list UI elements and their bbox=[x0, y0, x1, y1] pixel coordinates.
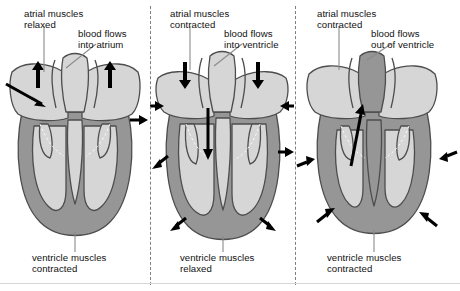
panel3-top-label: atrial muscles contracted bbox=[317, 8, 376, 31]
panel-ventricular-contraction: atrial muscles contracted blood flows ou… bbox=[295, 0, 460, 291]
heart-illustration bbox=[307, 52, 437, 234]
panel-divider-2 bbox=[295, 6, 296, 285]
panel1-top-label: atrial muscles relaxed bbox=[24, 8, 83, 31]
arrow-in-right-mid bbox=[439, 152, 457, 162]
panel2-flow-label: blood flows into ventricle bbox=[224, 28, 279, 51]
panel1-bottom-label-line2: contracted bbox=[32, 263, 106, 274]
panel3-top-label-line1: atrial muscles bbox=[317, 8, 376, 19]
panel1-top-label-line2: relaxed bbox=[24, 19, 83, 30]
cardiac-cycle-figure: atrial muscles relaxed blood flows into … bbox=[0, 0, 460, 291]
arrow-in-lower-right bbox=[419, 212, 437, 226]
arrow-out-lower-right bbox=[260, 218, 276, 231]
arrow-out-lower-left bbox=[152, 156, 168, 169]
panel-atrial-contraction: atrial muscles contracted blood flows in… bbox=[150, 0, 295, 291]
figure-bottom-rule bbox=[0, 283, 460, 284]
panel1-top-label-line1: atrial muscles bbox=[24, 8, 83, 19]
panel3-flow-label: blood flows out of ventricle bbox=[371, 28, 434, 51]
panel3-flow-label-line1: blood flows bbox=[371, 28, 434, 39]
panel3-bottom-label: ventricle muscles contracted bbox=[327, 252, 401, 275]
panel3-bottom-label-line1: ventricle muscles bbox=[327, 252, 401, 263]
panel3-bottom-label-line2: contracted bbox=[327, 263, 401, 274]
panel2-top-label: atrial muscles contracted bbox=[170, 8, 229, 31]
panel1-bottom-label: ventricle muscles contracted bbox=[32, 252, 106, 275]
panel1-bottom-label-line1: ventricle muscles bbox=[32, 252, 106, 263]
panel3-top-label-line2: contracted bbox=[317, 19, 376, 30]
panel1-flow-label-line2: into atrium bbox=[78, 39, 127, 50]
panel2-top-label-line1: atrial muscles bbox=[170, 8, 229, 19]
panel1-flow-label-line1: blood flows bbox=[78, 28, 127, 39]
arrow-out-to-right bbox=[130, 115, 148, 125]
panel2-bottom-label-line2: relaxed bbox=[180, 263, 254, 274]
heart-illustration bbox=[156, 52, 288, 240]
heart-diagram-stage-1 bbox=[0, 0, 150, 291]
heart-illustration bbox=[10, 54, 140, 236]
panel1-flow-label: blood flows into atrium bbox=[78, 28, 127, 51]
panel-divider-1 bbox=[150, 6, 151, 285]
panel2-top-label-line2: contracted bbox=[170, 19, 229, 30]
arrow-in-left-mid bbox=[297, 156, 315, 166]
arrow-out-lower-left-2 bbox=[170, 218, 186, 231]
panel3-flow-label-line2: out of ventricle bbox=[371, 39, 434, 50]
panel2-bottom-label: ventricle muscles relaxed bbox=[180, 252, 254, 275]
panel2-bottom-label-line1: ventricle muscles bbox=[180, 252, 254, 263]
panel-atrial-filling: atrial muscles relaxed blood flows into … bbox=[0, 0, 150, 291]
panel2-flow-label-line1: blood flows bbox=[224, 28, 279, 39]
arrow-in-lower-left bbox=[317, 208, 335, 222]
panel2-flow-label-line2: into ventricle bbox=[224, 39, 279, 50]
